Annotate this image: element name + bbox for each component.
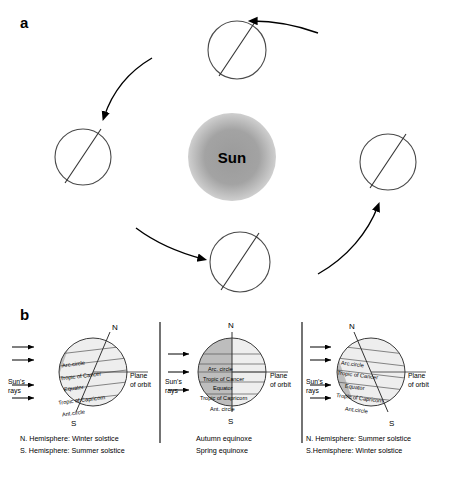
- pole-label-s-middle: S: [228, 417, 233, 426]
- orbit-arrow-top: [252, 21, 318, 33]
- plane-label-middle-line2: of orbit: [270, 380, 291, 390]
- pole-label-s-right: S: [389, 419, 394, 428]
- earth-left: [55, 129, 111, 185]
- subpanel-right: N S: [310, 310, 426, 430]
- earth-bottom: [210, 232, 270, 292]
- earth-top: [208, 21, 266, 79]
- pole-label-n-left: N: [112, 323, 118, 332]
- circle-label-antarctic-middle: Ant. circle: [210, 404, 235, 414]
- caption-left-line2: S. Hemisphere: Summer solstice: [20, 446, 125, 456]
- orbit-arrow-bottom: [136, 228, 203, 259]
- circle-label-equator-middle: Equator: [213, 383, 233, 393]
- circle-label-capricorn-middle: Tropic of Capricorn: [200, 393, 247, 403]
- sun-label: Sun: [218, 149, 246, 166]
- earth-right: [360, 134, 416, 190]
- caption-right-line2: S.Hemisphere: Winter solstice: [306, 446, 402, 456]
- panel-a-orbit-diagram: Sun: [0, 0, 466, 300]
- sun-rays-label-right-line2: rays: [306, 386, 319, 396]
- orbit-arrow-right: [318, 206, 378, 274]
- pole-label-n-right: N: [349, 322, 355, 331]
- pole-label-s-left: S: [71, 419, 76, 428]
- caption-middle-line2: Spring equinoxe: [196, 446, 248, 456]
- sun-rays-label-left-line2: rays: [8, 386, 21, 396]
- caption-right-line1: N. Hemisphere: Summer solstice: [306, 434, 411, 444]
- sun-rays-label-middle-line2: rays: [165, 386, 178, 396]
- orbit-arrow-left: [104, 58, 152, 117]
- circle-label-arctic-middle: Arc. circle: [208, 364, 233, 374]
- plane-label-left-line2: of orbit: [130, 380, 151, 390]
- plane-label-right-line2: of orbit: [408, 380, 429, 390]
- caption-middle-line1: Autumn equinoxe: [196, 434, 252, 444]
- pole-label-n-middle: N: [228, 321, 234, 330]
- caption-left-line1: N. Hemisphere: Winter solstice: [20, 434, 119, 444]
- sun-body: Sun: [188, 113, 276, 201]
